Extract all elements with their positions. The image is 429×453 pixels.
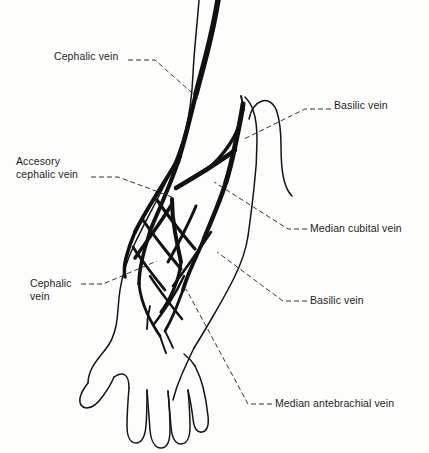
- vein-cephalic-main: [196, 0, 218, 94]
- finger-middle-outline: [147, 390, 170, 448]
- vein-network: [124, 0, 244, 353]
- arm-contour-wrist-lateral: [88, 350, 105, 383]
- label-cephalic-vein-upper: Cephalic vein: [54, 50, 118, 63]
- finger-little-outline: [188, 366, 208, 432]
- finger-index-outline: [127, 388, 147, 443]
- label-basilic-vein-upper: Basilic vein: [334, 99, 388, 112]
- label-median-antebrachial-vein: Median antebrachial vein: [275, 397, 394, 410]
- leader-median-cubital-vein: [214, 182, 307, 229]
- arm-contour-medial-forearm: [194, 236, 248, 348]
- label-median-cubital-vein: Median cubital vein: [310, 222, 402, 235]
- label-accessory-cephalic-vein: Accesory cephalic vein: [16, 155, 78, 181]
- vein-tributary-wrist-2: [165, 331, 173, 348]
- leader-cephalic-vein-upper: [128, 60, 200, 100]
- label-cephalic-vein-lower: Cephalic vein: [30, 277, 72, 303]
- arm-contour-wrist-medial: [173, 348, 194, 400]
- vein-basilic-mid: [204, 182, 226, 239]
- hand-web-outline: [114, 374, 129, 388]
- arm-contour-medial-upper: [245, 97, 257, 236]
- arm-contour-lateral-upper: [105, 0, 199, 350]
- vein-tributary-wrist-1: [160, 336, 166, 353]
- vein-cephalic-main-mid: [178, 94, 196, 162]
- label-basilic-vein-lower: Basilic vein: [310, 294, 364, 307]
- arm-outline: [80, 0, 292, 448]
- leader-basilic-vein-lower: [217, 252, 307, 301]
- thumb-outline: [80, 377, 114, 408]
- finger-ring-outline: [168, 390, 190, 444]
- anatomy-figure-superficial-forearm-veins: Cephalic vein Basilic vein Accesory ceph…: [0, 0, 429, 453]
- leader-median-antebrachial-vein: [186, 289, 272, 404]
